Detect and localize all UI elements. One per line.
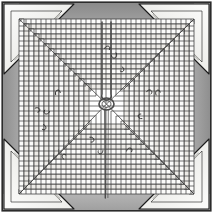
woven-mat-illustration — [0, 0, 213, 213]
weave-strand — [134, 74, 139, 139]
weave-strand — [44, 164, 169, 169]
weave-strand — [154, 54, 159, 159]
weave-strand — [24, 24, 189, 29]
weave-strand — [69, 69, 144, 74]
weave-strand — [19, 19, 24, 194]
weave-strand — [54, 154, 159, 159]
weave-strand — [39, 39, 174, 44]
weave-strand — [19, 189, 194, 194]
illustration-canvas — [0, 0, 213, 213]
weave-strand — [24, 24, 29, 189]
weave-strand — [19, 19, 194, 24]
weave-strand — [59, 59, 64, 154]
weave-strand — [189, 19, 194, 194]
weave-strand — [69, 69, 74, 144]
weave-strand — [59, 149, 154, 154]
weave-strand — [149, 59, 154, 154]
weave-strand — [74, 134, 139, 139]
weave-strand — [44, 44, 49, 169]
weave-strand — [24, 184, 189, 189]
weave-strand — [184, 24, 189, 189]
weave-strand — [59, 59, 154, 64]
weave-strand — [169, 39, 174, 174]
weave-strand — [74, 74, 79, 139]
weave-strand — [74, 74, 139, 79]
weave-strand — [69, 139, 144, 144]
weave-strand — [164, 44, 169, 169]
weave-strand — [139, 69, 144, 144]
weave-strand — [39, 169, 174, 174]
weave-strand — [54, 54, 159, 59]
weave-strand — [39, 39, 44, 174]
weave-strand — [54, 54, 59, 159]
